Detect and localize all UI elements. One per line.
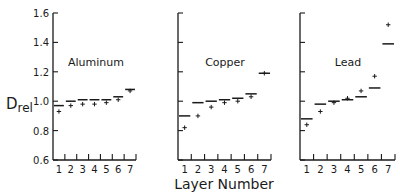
x-tick-label: 5 bbox=[358, 164, 364, 175]
x-tick-label: 5 bbox=[235, 164, 241, 175]
x-tick-label: 7 bbox=[261, 164, 267, 175]
measured-point bbox=[236, 99, 240, 103]
panel-title: Lead bbox=[335, 56, 361, 69]
x-tick-label: 2 bbox=[317, 164, 323, 175]
measured-point bbox=[104, 100, 108, 104]
x-tick-label: 1 bbox=[56, 164, 62, 175]
x-tick-label: 6 bbox=[371, 164, 377, 175]
panel-lead: 1234567Lead bbox=[300, 13, 395, 175]
panel-copper: 1234567Copper bbox=[178, 13, 271, 175]
x-tick-label: 2 bbox=[68, 164, 74, 175]
x-tick-label: 3 bbox=[331, 164, 337, 175]
y-axis-label-main: D bbox=[6, 95, 18, 113]
x-tick-label: 6 bbox=[115, 164, 121, 175]
x-axis-label: Layer Number bbox=[174, 176, 274, 192]
y-tick-label: 1.2 bbox=[33, 67, 49, 78]
x-tick-label: 4 bbox=[91, 164, 97, 175]
measured-point bbox=[359, 89, 363, 93]
measured-point bbox=[182, 125, 186, 129]
x-tick-label: 7 bbox=[127, 164, 133, 175]
panel-title: Copper bbox=[205, 56, 245, 69]
y-axis-tick-labels: 0.60.81.01.21.41.6 bbox=[33, 8, 49, 166]
y-tick-label: 1.4 bbox=[33, 37, 49, 48]
y-axis-label-sub: rel bbox=[18, 101, 33, 115]
x-tick-label: 3 bbox=[79, 164, 85, 175]
x-tick-label: 1 bbox=[304, 164, 310, 175]
x-tick-label: 3 bbox=[208, 164, 214, 175]
measured-point bbox=[92, 102, 96, 106]
y-tick-label: 1.6 bbox=[33, 8, 49, 19]
x-tick-label: 4 bbox=[344, 164, 350, 175]
y-tick-label: 1.0 bbox=[33, 96, 49, 107]
x-tick-label: 5 bbox=[103, 164, 109, 175]
measured-point bbox=[372, 74, 376, 78]
measured-point bbox=[262, 71, 266, 75]
measured-point bbox=[222, 100, 226, 104]
panel-aluminum: 1234567Aluminum bbox=[53, 13, 136, 175]
measured-point bbox=[196, 114, 200, 118]
x-tick-label: 1 bbox=[181, 164, 187, 175]
x-tick-label: 4 bbox=[221, 164, 227, 175]
x-tick-label: 6 bbox=[248, 164, 254, 175]
measured-point bbox=[249, 95, 253, 99]
y-axis-label: Drel bbox=[6, 95, 33, 115]
panel-title: Aluminum bbox=[68, 56, 124, 69]
measured-point bbox=[69, 103, 73, 107]
chart-figure: 0.60.81.01.21.41.6 Drel 1234567Aluminum … bbox=[0, 0, 400, 195]
y-tick-label: 0.6 bbox=[33, 155, 49, 166]
measured-point bbox=[209, 105, 213, 109]
measured-point bbox=[386, 23, 390, 27]
y-tick-label: 0.8 bbox=[33, 126, 49, 137]
measured-point bbox=[318, 109, 322, 113]
x-tick-label: 2 bbox=[195, 164, 201, 175]
measured-point bbox=[80, 102, 84, 106]
measured-point bbox=[305, 123, 309, 127]
measured-point bbox=[57, 109, 61, 113]
measured-point bbox=[116, 98, 120, 102]
x-tick-label: 7 bbox=[385, 164, 391, 175]
